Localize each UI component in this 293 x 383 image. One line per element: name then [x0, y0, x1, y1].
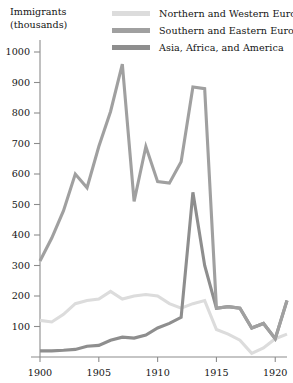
x-tick-label-1915: 1915 [204, 367, 228, 378]
y-tick-label-200: 200 [12, 290, 30, 301]
y-axis-ticks [34, 52, 40, 327]
y-tick-label-100: 100 [12, 321, 30, 332]
x-tick-label-1910: 1910 [145, 367, 169, 378]
y-tick-label-500: 500 [12, 199, 30, 210]
plot-svg: 1002003004005006007008009001000 19001905… [0, 0, 293, 383]
x-axis-tick-labels: 19001905191019151920 [28, 367, 288, 378]
x-tick-label-1900: 1900 [28, 367, 52, 378]
series-line-southern-and-eastern-europe [40, 64, 287, 339]
x-tick-label-1905: 1905 [87, 367, 111, 378]
y-tick-label-400: 400 [12, 229, 30, 240]
y-tick-label-700: 700 [12, 138, 30, 149]
y-axis-tick-labels: 1002003004005006007008009001000 [6, 46, 30, 332]
y-tick-label-300: 300 [12, 260, 30, 271]
y-tick-label-600: 600 [12, 168, 30, 179]
immigrants-line-chart: Immigrants (thousands) Northern and West… [0, 0, 293, 383]
series-lines [40, 64, 287, 353]
y-tick-label-1000: 1000 [6, 46, 30, 57]
plot-area: 1002003004005006007008009001000 19001905… [0, 0, 293, 383]
x-axis-ticks [40, 357, 275, 362]
y-tick-label-800: 800 [12, 107, 30, 118]
x-tick-label-1920: 1920 [263, 367, 287, 378]
y-tick-label-900: 900 [12, 77, 30, 88]
